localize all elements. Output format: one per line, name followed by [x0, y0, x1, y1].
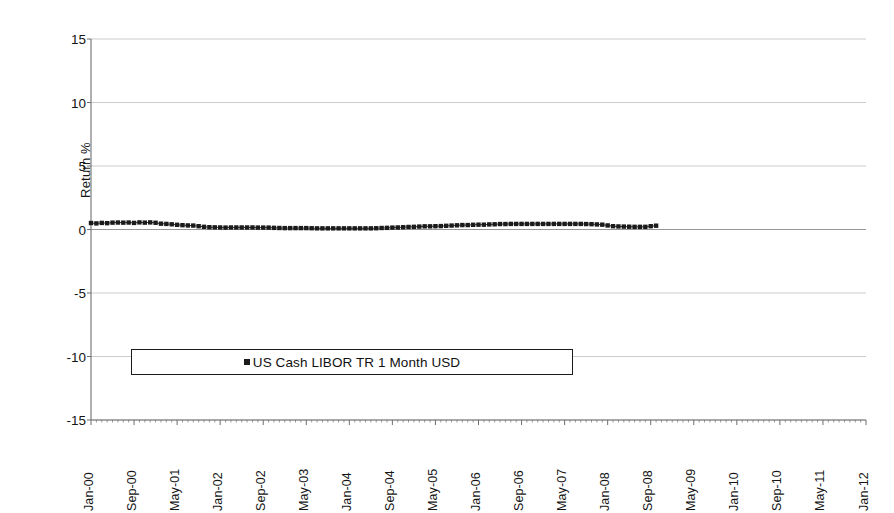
x-tick-label: Jan-06: [469, 472, 483, 511]
y-tick-label: -10: [46, 349, 86, 364]
x-tick-label: Sep-10: [770, 470, 784, 511]
x-tick-label: Sep-00: [125, 470, 139, 511]
x-tick-label: May-09: [684, 469, 698, 511]
x-axis-tick-labels: Jan-00Sep-00May-01Jan-02Sep-02May-03Jan-…: [0, 424, 894, 513]
chart-legend: US Cash LIBOR TR 1 Month USD: [131, 349, 573, 375]
x-tick-label: Sep-02: [254, 470, 268, 511]
chart-figure: 151050-5-10-15 Jan-00Sep-00May-01Jan-02S…: [0, 0, 894, 513]
legend-label: US Cash LIBOR TR 1 Month USD: [253, 355, 460, 370]
legend-marker-icon: [244, 359, 250, 365]
x-tick-label: Sep-04: [383, 470, 397, 511]
x-tick-label: Jan-00: [82, 472, 96, 511]
y-tick-label: -5: [46, 286, 86, 301]
x-tick-label: May-07: [555, 469, 569, 511]
y-axis-title: Return %: [78, 100, 98, 240]
x-tick-label: Jan-10: [727, 472, 741, 511]
x-tick-label: Sep-06: [512, 470, 526, 511]
x-tick-label: Jan-02: [211, 472, 225, 511]
x-tick-label: May-03: [297, 469, 311, 511]
x-tick-label: Jan-08: [598, 472, 612, 511]
x-tick-label: Jan-04: [340, 472, 354, 511]
x-tick-label: Sep-08: [641, 470, 655, 511]
y-tick-label: 15: [46, 32, 86, 47]
x-tick-label: Jan-12: [857, 472, 871, 511]
x-tick-label: May-05: [426, 469, 440, 511]
x-tick-label: May-01: [168, 469, 182, 511]
x-tick-label: May-11: [813, 470, 827, 511]
data-series-us-cash-libor: [89, 220, 659, 230]
